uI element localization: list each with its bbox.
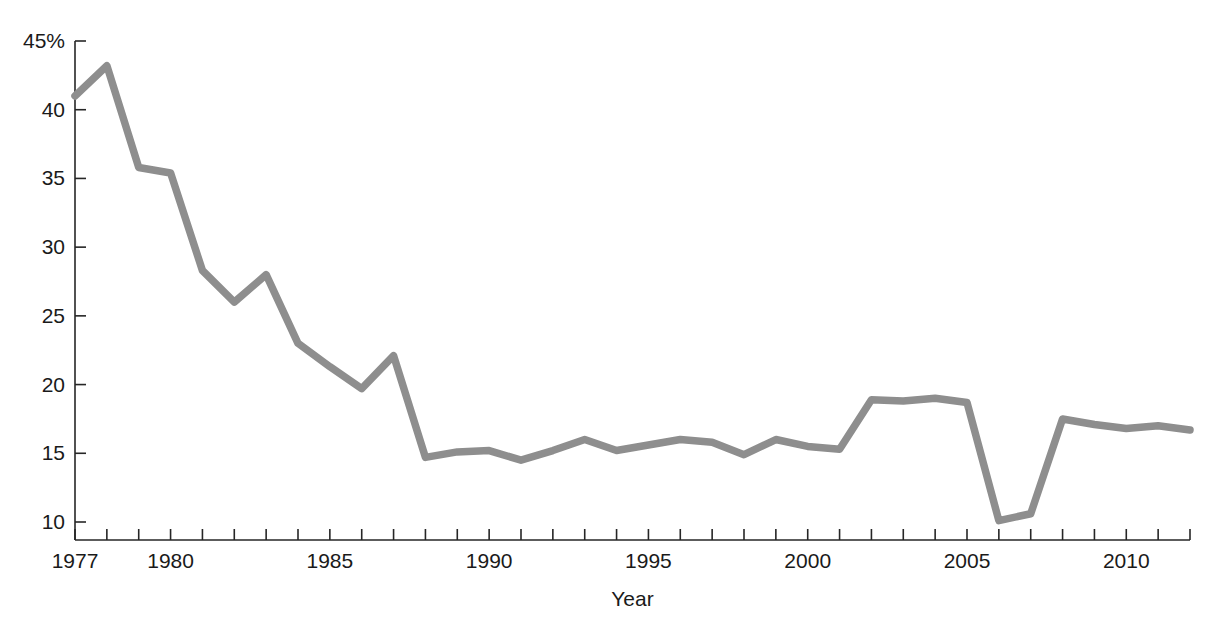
x-tick-label: 1985 — [306, 549, 353, 572]
x-tick-label: 2010 — [1103, 549, 1150, 572]
y-tick-label: 10 — [42, 510, 65, 533]
y-tick-label: 35 — [42, 166, 65, 189]
y-tick-label: 30 — [42, 235, 65, 258]
x-tick-label: 1990 — [466, 549, 513, 572]
y-axis-tick-marks — [75, 41, 86, 522]
x-axis-title: Year — [611, 587, 653, 610]
x-tick-label: 1980 — [147, 549, 194, 572]
x-axis-tick-marks — [75, 529, 1190, 540]
x-tick-label: 1995 — [625, 549, 672, 572]
y-tick-label: 20 — [42, 373, 65, 396]
y-tick-label: 40 — [42, 98, 65, 121]
y-tick-label: 15 — [42, 441, 65, 464]
y-axis-tick-labels: 45%40353025201510 — [23, 29, 65, 533]
x-axis-tick-labels: 19771980198519901995200020052010 — [52, 549, 1150, 572]
line-chart: 45%40353025201510 1977198019851990199520… — [0, 0, 1215, 631]
chart-container: 45%40353025201510 1977198019851990199520… — [0, 0, 1215, 631]
x-tick-label: 2005 — [944, 549, 991, 572]
y-tick-label: 45% — [23, 29, 65, 52]
x-tick-label: 2000 — [784, 549, 831, 572]
y-tick-label: 25 — [42, 304, 65, 327]
x-tick-label: 1977 — [52, 549, 99, 572]
data-series-line — [75, 66, 1190, 521]
